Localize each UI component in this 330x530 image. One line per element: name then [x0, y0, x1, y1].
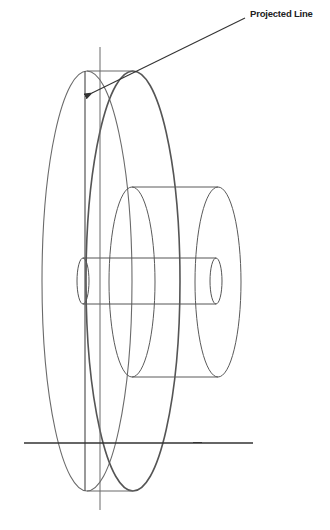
- shaft-back-face: [210, 258, 222, 304]
- wireframe-diagram: Projected Line: [0, 0, 330, 530]
- hub-cylinder: [109, 187, 241, 377]
- disc-front-face: [42, 71, 132, 491]
- hub-back-face: [195, 187, 241, 377]
- shaft: [77, 258, 222, 304]
- shaft-front-face: [77, 258, 89, 304]
- wireframe-drawing: [0, 0, 330, 530]
- annotation-arrow: [92, 18, 245, 93]
- large-disc: [42, 71, 180, 491]
- projected-line-label: Projected Line: [250, 8, 313, 19]
